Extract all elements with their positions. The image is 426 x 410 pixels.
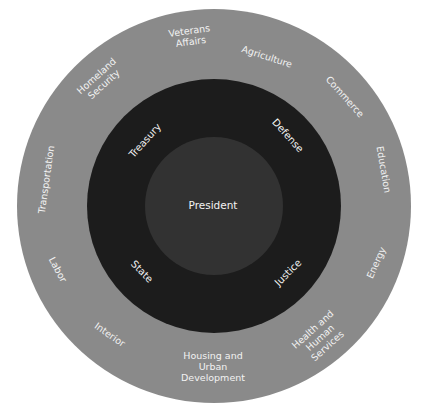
president-label: President (163, 200, 263, 211)
concentric-government-diagram: President Treasury Defense State Justice… (0, 0, 426, 410)
outer-label-housing-and-urban-development: Housing and Urban Development (168, 350, 258, 383)
